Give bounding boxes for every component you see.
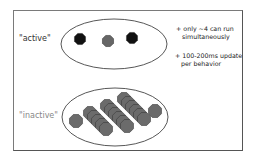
inactive-group-label: "inactive" [19,111,58,120]
note-bullet: + [176,25,181,32]
behavior-node-inactive [138,113,151,126]
diagram-shapes [0,0,261,159]
note-line: simultaneously [176,33,234,41]
note-line: only ~4 can run [183,25,234,32]
active-group-label: "active" [19,34,51,43]
behavior-node-inactive [149,105,162,118]
note-bullet: + [175,52,180,59]
behavior-node-active [74,33,85,44]
note-line: per behavior [175,60,242,68]
behavior-node-active [102,35,113,46]
note-concurrency: + only ~4 can run simultaneously [176,25,234,41]
note-line: 100-200ms update [182,52,242,59]
behavior-node-active [126,32,137,43]
behavior-node-inactive [70,115,83,128]
note-update-rate: + 100-200ms update per behavior [175,52,242,68]
behavior-node-inactive [121,120,134,133]
diagram-canvas: "active" "inactive" + only ~4 can run si… [0,0,261,159]
behavior-node-inactive [100,123,113,136]
